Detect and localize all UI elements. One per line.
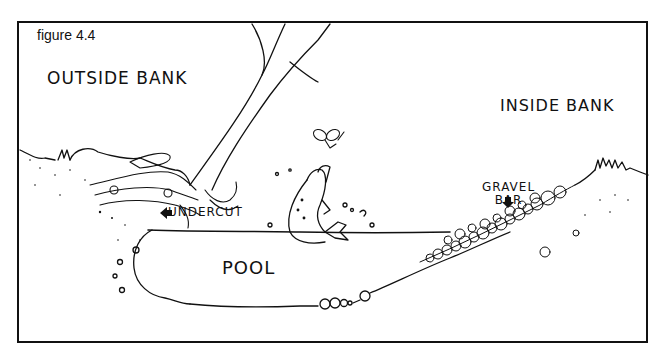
- figure-label: figure 4.4: [37, 27, 95, 43]
- label-gravel-bar: GRAVEL BAR: [482, 181, 535, 207]
- label-inside-bank: INSIDE BANK: [500, 96, 614, 115]
- stream-illustration: [0, 0, 665, 357]
- inside-bank-ground: [575, 158, 648, 185]
- label-gravel-line2: BAR: [482, 194, 535, 207]
- insect-icon: [311, 127, 344, 148]
- label-undercut: UNDERCUT: [168, 205, 243, 219]
- tree-icon: [20, 24, 330, 190]
- label-outside-bank: OUTSIDE BANK: [47, 68, 187, 88]
- label-pool: POOL: [222, 257, 275, 278]
- outside-bank-ground: [113, 230, 190, 304]
- water-surface: [148, 230, 450, 233]
